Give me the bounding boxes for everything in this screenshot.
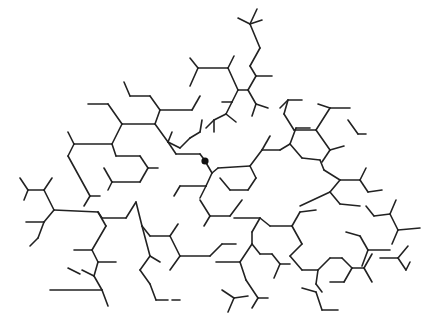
lattice-edge bbox=[150, 284, 156, 300]
lattice-edge bbox=[250, 24, 260, 48]
lattice-edge bbox=[140, 168, 148, 182]
lattice-edge bbox=[284, 114, 294, 130]
lattice-svg bbox=[0, 0, 433, 327]
lattice-edge bbox=[234, 296, 248, 298]
lattice-edge bbox=[200, 120, 202, 132]
lattice-edge bbox=[228, 298, 234, 312]
lattice-edge bbox=[248, 76, 256, 90]
lattice-edge bbox=[206, 120, 214, 128]
lattice-edge bbox=[230, 200, 242, 216]
lattice-edge bbox=[250, 150, 262, 166]
lattice-edge bbox=[292, 212, 300, 226]
lattice-edge bbox=[232, 90, 238, 102]
lattice-edge bbox=[92, 250, 98, 262]
lattice-edge bbox=[390, 200, 396, 214]
lattice-edge bbox=[398, 228, 420, 230]
lattice-edge bbox=[342, 258, 352, 268]
marked-node-dot bbox=[201, 157, 208, 164]
lattice-edge bbox=[112, 144, 116, 156]
lattice-edge bbox=[330, 180, 340, 192]
lattice-edge bbox=[238, 18, 250, 24]
lattice-diagram: hexagonal-lattice-branching-network bbox=[0, 0, 433, 327]
lattice-edge bbox=[348, 120, 358, 134]
lattice-edge bbox=[192, 96, 200, 110]
lattice-edge bbox=[54, 210, 98, 212]
lattice-edge bbox=[272, 254, 280, 264]
lattice-edge bbox=[68, 132, 74, 144]
lattice-edge bbox=[252, 104, 256, 116]
lattice-edge bbox=[168, 132, 172, 142]
lattice-edge bbox=[340, 204, 360, 206]
lattice-edge bbox=[190, 68, 198, 86]
lattice-edge bbox=[38, 222, 44, 238]
lattice-edge bbox=[406, 262, 410, 270]
lattice-edge bbox=[150, 96, 160, 110]
lattice-edge bbox=[330, 192, 340, 204]
lattice-edge bbox=[124, 82, 130, 96]
lattice-edge bbox=[240, 262, 246, 280]
lattice-edge bbox=[290, 144, 302, 158]
lattice-edge bbox=[104, 168, 112, 182]
lattice-edge bbox=[398, 246, 408, 258]
lattice-edge bbox=[155, 124, 168, 142]
lattice-edge bbox=[302, 288, 316, 292]
lattice-edge bbox=[218, 166, 250, 168]
lattice-edge bbox=[214, 114, 226, 120]
lattice-edge bbox=[84, 196, 90, 206]
lattice-edge bbox=[364, 268, 372, 282]
lattice-edge bbox=[170, 224, 178, 236]
lattice-edge bbox=[250, 166, 256, 178]
lattice-edge bbox=[190, 132, 200, 138]
lattice-edge bbox=[248, 178, 256, 190]
lattice-edge bbox=[228, 68, 238, 90]
lattice-edge bbox=[30, 238, 38, 246]
lattice-edge bbox=[108, 104, 122, 124]
lattice-edge bbox=[226, 102, 232, 114]
lattice-edge bbox=[94, 276, 102, 290]
lattice-edge bbox=[290, 244, 302, 256]
lattice-edge bbox=[220, 178, 230, 190]
lattice-edge bbox=[252, 298, 258, 308]
lattice-edge bbox=[180, 138, 190, 148]
lattice-edge bbox=[256, 104, 268, 108]
lattice-edge bbox=[250, 66, 256, 76]
lattice-edge bbox=[68, 144, 74, 156]
lattice-edge bbox=[44, 190, 54, 210]
lattice-edge bbox=[318, 104, 330, 108]
lattice-edge bbox=[228, 56, 234, 68]
lattice-edge bbox=[252, 244, 260, 254]
lattice-edge bbox=[200, 200, 210, 216]
lattice-edge bbox=[226, 114, 236, 122]
lattice-edge bbox=[330, 146, 344, 150]
lattice-edge bbox=[140, 156, 148, 168]
lattice-edge bbox=[398, 258, 406, 270]
lattice-edge bbox=[300, 210, 316, 212]
lattice-edge bbox=[140, 256, 150, 270]
lattice-edge bbox=[200, 186, 206, 198]
lattice-edge bbox=[126, 202, 136, 218]
lattice-edge bbox=[204, 216, 210, 226]
lattice-edge bbox=[344, 268, 352, 282]
lattice-edge bbox=[316, 292, 322, 310]
lattice-edge bbox=[222, 290, 234, 298]
lattice-edge bbox=[292, 226, 302, 244]
lattice-edge bbox=[324, 170, 340, 180]
lattice-edge bbox=[92, 226, 106, 250]
lattice-edge bbox=[368, 190, 382, 192]
lattice-edge bbox=[210, 244, 222, 256]
lattice-edge bbox=[240, 244, 252, 262]
lattice-edge bbox=[392, 230, 398, 244]
lattice-edge bbox=[98, 212, 106, 226]
lattice-edge bbox=[262, 136, 270, 150]
lattice-edge bbox=[290, 256, 302, 270]
lattice-edge bbox=[360, 236, 368, 250]
lattice-edge bbox=[360, 168, 366, 180]
lattice-edge bbox=[316, 108, 330, 130]
lattice-edge bbox=[68, 268, 80, 274]
lattice-edge bbox=[190, 58, 198, 68]
lattice-edge bbox=[366, 206, 374, 216]
lattice-edge bbox=[20, 178, 28, 190]
lattice-edge bbox=[108, 182, 112, 190]
lattice-edge bbox=[112, 124, 122, 144]
lattice-edge bbox=[318, 258, 330, 270]
